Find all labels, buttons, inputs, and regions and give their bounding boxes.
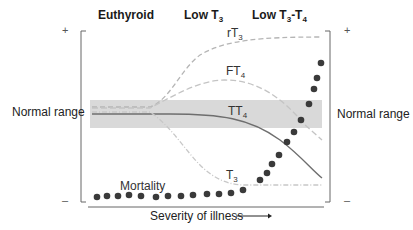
- left-minus-sign: –: [62, 194, 68, 206]
- right-plus-sign: +: [344, 24, 350, 36]
- mortality-label: Mortality: [120, 179, 165, 193]
- left-normal-range-label: Normal range: [12, 105, 85, 119]
- phase-low-t3-t4-main: Low T: [252, 8, 287, 22]
- ft4-label-main: FT: [226, 64, 241, 78]
- x-axis-label: Severity of illness: [150, 209, 243, 223]
- phase-low-t3-sub: 3: [219, 15, 223, 24]
- right-minus-sign: –: [344, 194, 350, 206]
- right-normal-range-label: Normal range: [337, 107, 410, 121]
- tt4-label: TT4: [228, 104, 247, 120]
- right-bracket: [325, 31, 330, 202]
- phase-low-t3: Low T3: [184, 8, 223, 24]
- rt3-label: rT3: [227, 26, 243, 42]
- rt3-label-main: rT: [227, 26, 238, 40]
- tt4-label-main: TT: [228, 104, 243, 118]
- phase-low-t3-main: Low T: [184, 8, 219, 22]
- rt3-label-sub: 3: [238, 33, 242, 42]
- phase-euthyroid: Euthyroid: [98, 8, 154, 22]
- ft4-label-sub: 4: [241, 71, 245, 80]
- t3-label-sub: 3: [233, 175, 237, 184]
- ft4-label: FT4: [226, 64, 245, 80]
- tt4-label-sub: 4: [243, 111, 247, 120]
- t3-label: T3: [226, 168, 238, 184]
- phase-sub-4: 4: [302, 15, 306, 24]
- rt3-curve: [92, 37, 322, 107]
- severity-arrow-head-icon: [268, 214, 272, 219]
- phase-dash-t: -T: [291, 8, 302, 22]
- left-plus-sign: +: [62, 24, 68, 36]
- phase-low-t3-t4: Low T3-T4: [252, 8, 307, 24]
